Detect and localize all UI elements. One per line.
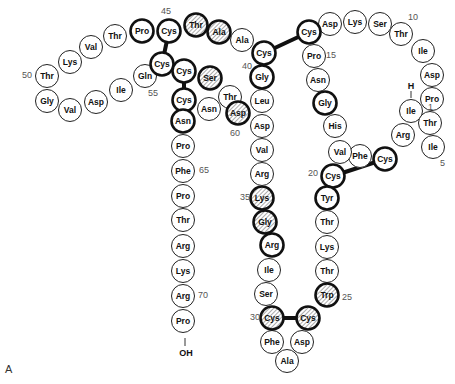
residue-label: Pro (135, 26, 149, 36)
residue-label: Thr (176, 215, 190, 225)
residue-label: Asn (310, 75, 326, 85)
residue-27: Asp (291, 331, 314, 354)
residue-69: Lys (172, 260, 195, 283)
residue-60: Asp (227, 102, 250, 125)
residue-25: Trp (316, 284, 339, 307)
residue-5: Ile (422, 136, 445, 159)
residue-50: Thr (36, 65, 59, 88)
residue-label: Val (85, 42, 97, 52)
residue-label: Thr (40, 71, 54, 81)
residue-label: Cys (161, 26, 177, 36)
residue-3: Cys (374, 148, 397, 171)
residue-label: Gly (40, 96, 54, 106)
residue-label: Asp (254, 121, 270, 131)
residue-15: Pro (303, 45, 326, 68)
residue-65: Phe (172, 160, 195, 183)
residue-68: Arg (172, 235, 195, 258)
residue-32: Ile (258, 259, 281, 282)
n-terminus-label: H (408, 81, 415, 91)
residue-label: Phe (264, 337, 280, 347)
residue-label: Thr (320, 217, 334, 227)
residue-label: Trp (320, 290, 333, 300)
residue-10: Thr (390, 23, 413, 46)
residue-label: Lys (176, 266, 191, 276)
residue-20: Cys (322, 165, 345, 188)
residue-label: Ala (212, 27, 226, 37)
residue-57: Cys (173, 60, 196, 83)
residue-label: Gln (138, 71, 152, 81)
residue-label: Arg (176, 241, 191, 251)
residue-53: Asp (85, 91, 108, 114)
residue-label: Arg (265, 240, 280, 250)
position-number: 35 (240, 192, 250, 202)
position-number: 30 (250, 312, 260, 322)
residue-label: Ala (280, 356, 294, 366)
protein-sequence-diagram: IleArgCysPheIleThrProAspIleThrSerLysAspC… (0, 0, 455, 384)
residue-30: Cys (261, 307, 284, 330)
position-number: 65 (199, 165, 209, 175)
residue-54: Ile (110, 79, 133, 102)
residue-24: Thr (316, 260, 339, 283)
residue-label: Arg (255, 169, 270, 179)
position-number: 60 (230, 128, 240, 138)
residue-label: Cys (154, 59, 170, 69)
residue-9: Ile (412, 40, 435, 63)
position-number: 55 (148, 88, 158, 98)
residue-label: Ser (373, 19, 387, 29)
position-number: 45 (161, 6, 171, 16)
residue-label: Cys (264, 313, 280, 323)
residue-label: Pro (176, 316, 190, 326)
residue-label: Val (64, 105, 76, 115)
residue-14: Cys (298, 21, 321, 44)
residue-label: Asp (424, 70, 440, 80)
residue-label: Cys (300, 313, 316, 323)
residue-4: Phe (349, 145, 372, 168)
position-number: 40 (242, 61, 252, 71)
residue-39: Leu (251, 90, 274, 113)
residue-41: Cys (253, 42, 276, 65)
residue-label: Val (334, 147, 346, 157)
residue-16: Asn (307, 69, 330, 92)
position-number: 25 (342, 292, 352, 302)
residue-33: Arg (261, 234, 284, 257)
residue-31: Ser (255, 283, 278, 306)
position-number: 1 (428, 102, 433, 112)
residue-37: Val (251, 139, 274, 162)
residue-label: Cys (377, 154, 393, 164)
residue-label: Arg (176, 291, 191, 301)
residue-36: Arg (251, 163, 274, 186)
residue-label: Lys (348, 17, 363, 27)
residue-42: Ala (231, 29, 254, 52)
residue-61: Asn (198, 98, 221, 121)
residue-label: Cys (325, 171, 341, 181)
residue-label: Asp (88, 97, 104, 107)
residue-29: Phe (261, 331, 284, 354)
residue-label: Asp (230, 108, 246, 118)
residue-71: Pro (172, 310, 195, 333)
residue-58: Ser (199, 67, 222, 90)
residue-17: Gly (314, 92, 337, 115)
residue-12: Lys (344, 11, 367, 34)
residue-label: Ile (406, 106, 416, 116)
residue-52: Val (59, 99, 82, 122)
residue-label: Gly (318, 98, 332, 108)
residue-label: His (328, 121, 342, 131)
residue-44: Thr (185, 14, 208, 37)
residue-48: Val (80, 36, 103, 59)
residue-label: Ile (264, 265, 274, 275)
residue-51: Gly (36, 90, 59, 113)
residue-label: Thr (394, 29, 408, 39)
residue-label: Pro (307, 51, 321, 61)
residue-label: Thr (320, 266, 334, 276)
residue-label: Cys (176, 66, 192, 76)
residue-21: Tyr (316, 187, 339, 210)
residue-49: Lys (59, 51, 82, 74)
residue-label: Lys (255, 193, 270, 203)
position-number: 10 (408, 12, 418, 22)
residue-46: Pro (131, 20, 154, 43)
residue-6: Thr (419, 112, 442, 135)
residue-label: Ser (203, 73, 217, 83)
residue-label: Asn (175, 116, 191, 126)
residue-67: Thr (172, 209, 195, 232)
residue-label: Thr (423, 118, 437, 128)
